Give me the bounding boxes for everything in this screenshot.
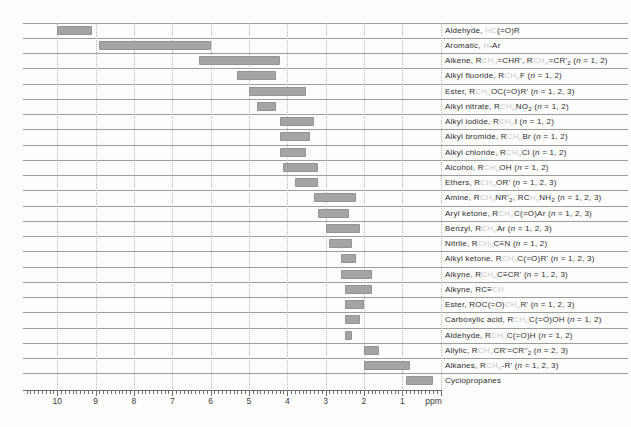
x-axis-minor-tick [222, 391, 223, 394]
x-axis-minor-tick [268, 391, 269, 394]
range-bar-benzyl [326, 224, 361, 233]
x-axis-major-tick [249, 391, 250, 396]
x-axis-minor-tick [214, 391, 215, 394]
x-axis-major-tick [211, 391, 212, 396]
row-label-carboxylic-acid: Carboxylic acid, RCHnC(=O)OH (n = 1, 2) [445, 312, 627, 327]
x-axis-major-tick [172, 391, 173, 396]
row-label-alkyl-nitrate: Alkyl nitrate, RCHnNO2 (n = 1, 2) [445, 99, 627, 114]
x-axis-minor-tick [207, 391, 208, 394]
label-text-fragment: OR' [496, 178, 510, 187]
x-axis-minor-tick [303, 391, 304, 394]
x-axis-minor-tick [241, 391, 242, 394]
x-axis-minor-tick [34, 391, 35, 394]
label-text-fragment: Benzyl, R [445, 224, 481, 233]
label-text-fragment: , RC [513, 193, 530, 202]
label-text-fragment: CR'=CR'' [494, 346, 528, 355]
row-label-alkyne-terminal: Alkyne, RC≡CH [445, 282, 627, 297]
x-axis-major-tick [364, 391, 365, 396]
highlighted-formula-fragment: CH [499, 117, 511, 126]
x-axis-minor-tick [333, 391, 334, 394]
x-axis-minor-tick [264, 391, 265, 394]
x-axis-minor-tick [345, 391, 346, 394]
label-text-fragment: C(=O)Ar [514, 209, 546, 218]
label-text-fragment: = 1, 2, 3) [558, 254, 594, 263]
label-text-fragment: Alkene, R [445, 56, 482, 65]
label-text-fragment: Ester, R [445, 87, 475, 96]
x-axis-minor-tick [276, 391, 277, 394]
label-text-fragment: Aldehyde, [445, 26, 485, 35]
label-text-fragment: C(=O)H [507, 331, 536, 340]
label-text-fragment: Cl [522, 148, 530, 157]
x-axis-minor-tick [421, 391, 422, 394]
highlighted-formula-fragment: CH [478, 239, 490, 248]
range-bar-ethers [295, 178, 318, 187]
x-axis-minor-tick [272, 391, 273, 394]
x-axis-minor-tick [395, 391, 396, 394]
x-axis-minor-tick [53, 391, 54, 394]
x-axis-minor-tick [406, 391, 407, 394]
x-axis-minor-tick [30, 391, 31, 394]
range-bar-aryl-ketone [318, 209, 349, 218]
axis-tick-label-2: 2 [353, 396, 375, 406]
label-text-fragment: NO [516, 102, 528, 111]
label-text-fragment: = 1, 2) [522, 163, 549, 172]
label-text-fragment: -Ar [489, 41, 500, 50]
highlighted-formula-fragment: CH [484, 163, 496, 172]
label-text-fragment: Alkyl chloride, R [445, 148, 506, 157]
x-axis-major-tick [134, 391, 135, 396]
x-axis-minor-tick [283, 391, 284, 394]
label-text-fragment: Alkyne, R [445, 270, 481, 279]
x-axis-minor-tick [176, 391, 177, 394]
x-axis-major-tick [441, 391, 442, 396]
highlighted-formula-fragment: CH [481, 224, 493, 233]
highlighted-formula-fragment: HC [485, 26, 497, 35]
ppm-gridline [96, 23, 97, 390]
label-text-fragment: = 1, 2) [535, 71, 562, 80]
range-bar-alkene [199, 56, 280, 65]
highlighted-formula-fragment: CH [500, 102, 512, 111]
range-bar-amine [314, 193, 356, 202]
x-axis-minor-tick [425, 391, 426, 394]
range-bar-alkyne-propargylic [341, 270, 372, 279]
x-axis-minor-tick [280, 391, 281, 394]
x-axis-minor-tick [341, 391, 342, 394]
x-axis-minor-tick [375, 391, 376, 394]
label-text-fragment: = 1, 2) [575, 315, 602, 324]
row-label-alkyl-chloride: Alkyl chloride, RCHnCl (n = 1, 2) [445, 145, 627, 160]
x-axis-minor-tick [42, 391, 43, 394]
highlighted-formula-fragment: CH [482, 56, 494, 65]
range-bar-alkanes [364, 361, 410, 370]
ppm-gridline [134, 23, 135, 390]
label-text-fragment: = 1, 2, 3) [538, 87, 574, 96]
highlighted-formula-fragment: CH [481, 270, 493, 279]
label-text-fragment: Ester, ROC(=O) [445, 300, 505, 309]
row-label-alkyl-bromide: Alkyl bromide, RCHnBr (n = 1, 2) [445, 129, 627, 144]
x-axis-minor-tick [92, 391, 93, 394]
range-bar-alkyl-chloride [280, 148, 307, 157]
row-label-aldehyde-alpha: Aldehyde, RCHnC(=O)H (n = 1, 2) [445, 328, 627, 343]
ppm-gridline [402, 23, 403, 390]
x-axis-major-tick [402, 391, 403, 396]
x-axis-minor-tick [253, 391, 254, 394]
row-label-aromatic-h-ar: Aromatic, H-Ar [445, 38, 627, 53]
highlighted-formula-fragment: CH [506, 148, 518, 157]
label-text-fragment: = 1, 2) [520, 239, 547, 248]
highlighted-formula-fragment: CH [498, 209, 510, 218]
label-text-fragment: C(=O)R' [517, 254, 548, 263]
range-bar-aldehyde-alpha [345, 331, 353, 340]
axis-tick-label-4: 4 [276, 396, 298, 406]
label-text-fragment: Ethers, R [445, 178, 480, 187]
label-text-fragment: =CR' [549, 56, 568, 65]
x-axis-minor-tick [138, 391, 139, 394]
range-bar-alkyl-fluoride [237, 71, 275, 80]
x-axis-minor-tick [46, 391, 47, 394]
x-axis-minor-tick [410, 391, 411, 394]
x-axis-minor-tick [291, 391, 292, 394]
x-axis-minor-tick [429, 391, 430, 394]
label-text-fragment: = 1, 2) [541, 132, 568, 141]
axis-tick-label-1: 1 [391, 396, 413, 406]
highlighted-formula-fragment: CH [507, 132, 519, 141]
ppm-gridline [57, 23, 58, 390]
x-axis-minor-tick [107, 391, 108, 394]
x-axis-minor-tick [372, 391, 373, 394]
